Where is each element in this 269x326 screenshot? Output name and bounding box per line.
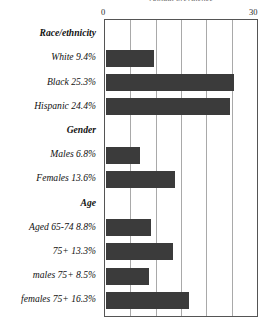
row-label: Aged 65-74 8.8% <box>0 221 96 232</box>
plot-area <box>104 19 258 317</box>
x-axis-tick-min: 0 <box>101 7 105 17</box>
row-label-column: Race/ethnicityWhite 9.4%Black 25.3%Hispa… <box>0 19 100 317</box>
group-heading: Gender <box>0 124 96 135</box>
row-label: Females 13.6% <box>0 172 96 183</box>
row-label: 75+ 13.3% <box>0 245 96 256</box>
bar <box>106 268 149 285</box>
row-label: females 75+ 16.3% <box>0 293 96 304</box>
chart-title: Annual prevalence <box>104 0 259 1</box>
bar <box>106 243 173 260</box>
row-label: Males 6.8% <box>0 148 96 159</box>
bar <box>106 171 175 188</box>
row-label: males 75+ 8.5% <box>0 269 96 280</box>
x-axis-tick-labels: 0 30 <box>0 7 269 18</box>
group-heading: Age <box>0 197 96 208</box>
row-label: Hispanic 24.4% <box>0 100 96 111</box>
row-label: Black 25.3% <box>0 76 96 87</box>
bar-chart: Annual prevalence 0 30 Race/ethnicityWhi… <box>0 0 269 326</box>
bar <box>106 98 230 115</box>
x-axis-tick-max: 30 <box>249 7 258 17</box>
bar <box>106 147 140 164</box>
group-heading: Race/ethnicity <box>0 27 96 38</box>
bar <box>106 219 151 236</box>
bar <box>106 74 234 91</box>
bars-layer <box>105 20 257 316</box>
bar <box>106 50 154 67</box>
bar <box>106 292 189 309</box>
row-label: White 9.4% <box>0 51 96 62</box>
